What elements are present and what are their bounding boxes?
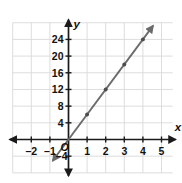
- x-tick-label: 3: [115, 146, 133, 157]
- x-tick-label: 1: [78, 146, 96, 157]
- x-tick-label: –2: [22, 146, 40, 157]
- x-tick-label: 4: [134, 146, 152, 157]
- x-tick-label: 2: [97, 146, 115, 157]
- y-tick-label: 24: [41, 34, 64, 45]
- y-tick-label: 4: [41, 118, 64, 129]
- y-axis-label: y: [74, 19, 80, 31]
- y-tick-label: 8: [41, 101, 64, 112]
- y-tick-label: 16: [41, 68, 64, 79]
- origin-label: O: [61, 142, 69, 153]
- x-tick-label: 5: [153, 146, 171, 157]
- x-axis-label: x: [175, 122, 181, 134]
- y-tick-label: 20: [41, 51, 64, 62]
- graph-figure: –2–112345–44812162024 x y O: [0, 0, 182, 183]
- y-tick-label: –4: [45, 151, 68, 162]
- y-tick-label: 12: [41, 84, 64, 95]
